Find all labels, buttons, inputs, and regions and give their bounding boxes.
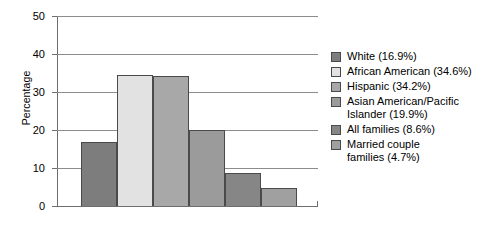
legend-swatch [331, 52, 341, 62]
y-axis-title: Percentage [20, 28, 32, 168]
y-axis-line [57, 17, 58, 207]
bar [225, 173, 261, 206]
legend-swatch [331, 67, 341, 77]
legend-swatch [331, 82, 341, 92]
chart-legend: White (16.9%)African American (34.6%)His… [331, 50, 483, 166]
legend-item: Asian American/Pacific Islander (19.9%) [331, 95, 483, 121]
legend-swatch [331, 125, 341, 135]
legend-label: White (16.9%) [347, 50, 417, 63]
y-axis-tick: 10 [52, 168, 57, 169]
x-axis-end-tick [317, 201, 318, 207]
bar [117, 75, 153, 206]
legend-label: Hispanic (34.2%) [347, 80, 431, 93]
bar [153, 76, 189, 206]
legend-item: White (16.9%) [331, 50, 483, 63]
legend-label: All families (8.6%) [347, 123, 435, 136]
bar [81, 142, 117, 206]
y-axis-tick-label: 0 [39, 200, 45, 212]
x-axis-line [57, 206, 318, 207]
y-axis-tick-label: 50 [33, 10, 45, 22]
y-axis-tick-label: 40 [33, 48, 45, 60]
legend-label: African American (34.6%) [347, 65, 472, 78]
y-axis-tick: 20 [52, 130, 57, 131]
y-axis-tick: 0 [52, 206, 57, 207]
y-axis-tick: 30 [52, 92, 57, 93]
plot-area: 01020304050 [57, 17, 318, 207]
legend-item: All families (8.6%) [331, 123, 483, 136]
legend-swatch [331, 140, 341, 150]
legend-item: African American (34.6%) [331, 65, 483, 78]
bar-chart-figure: Percentage 01020304050 White (16.9%)Afri… [0, 0, 483, 245]
legend-item: Hispanic (34.2%) [331, 80, 483, 93]
legend-item: Married couple families (4.7%) [331, 138, 483, 164]
legend-label: Married couple families (4.7%) [347, 138, 420, 164]
y-axis-tick: 50 [52, 16, 57, 17]
y-axis-tick: 40 [52, 54, 57, 55]
bar-series [81, 17, 297, 206]
y-axis-tick-label: 30 [33, 86, 45, 98]
y-axis-tick-label: 10 [33, 162, 45, 174]
legend-swatch [331, 97, 341, 107]
bar [189, 130, 225, 206]
y-axis-tick-label: 20 [33, 124, 45, 136]
legend-label: Asian American/Pacific Islander (19.9%) [347, 95, 459, 121]
bar [261, 188, 297, 206]
